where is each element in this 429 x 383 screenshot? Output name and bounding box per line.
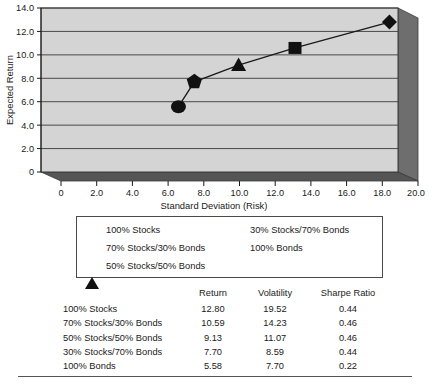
cell-sharpe: 0.44 xyxy=(306,302,390,316)
col-header-name xyxy=(60,286,182,302)
legend-item-30-70: 30% Stocks/70% Bonds xyxy=(229,222,349,240)
legend-item-100-bonds: 100% Bonds xyxy=(229,240,349,258)
x-tick-14: 14.0 xyxy=(302,188,320,198)
portfolio-stats-table: Return Volatility Sharpe Ratio 100% Stoc… xyxy=(60,286,390,373)
plot-floor xyxy=(41,172,418,181)
table-row: 100% Stocks12.8019.520.44 xyxy=(60,302,390,316)
plot-right-wall xyxy=(398,8,418,181)
x-tick-18: 18.0 xyxy=(373,188,391,198)
legend-label: 30% Stocks/70% Bonds xyxy=(250,226,349,235)
cell-volatility: 8.59 xyxy=(244,345,306,359)
x-tick-0: 0 xyxy=(58,188,63,198)
y-tick-6: 6.0 xyxy=(21,97,34,107)
data-point-circle xyxy=(171,100,186,113)
chart-legend: 100% Stocks 70% Stocks/30% Bonds 50% Sto… xyxy=(76,216,383,278)
y-tick-10: 10.0 xyxy=(16,50,34,60)
y-tick-8: 8.0 xyxy=(21,74,34,84)
table-header-row: Return Volatility Sharpe Ratio xyxy=(60,286,390,302)
x-tick-20: 20.0 xyxy=(407,188,425,198)
cell-return: 10.59 xyxy=(182,316,244,330)
cell-portfolio-name: 50% Stocks/50% Bonds xyxy=(60,331,182,345)
cell-portfolio-name: 100% Stocks xyxy=(60,302,182,316)
y-axis xyxy=(37,8,41,172)
y-tick-labels: 14.0 12.0 10.0 8.0 6.0 4.0 2.0 0 xyxy=(16,3,34,177)
cell-return: 7.70 xyxy=(182,345,244,359)
legend-label: 100% Stocks xyxy=(106,226,160,235)
table-row: 70% Stocks/30% Bonds10.5914.230.46 xyxy=(60,316,390,330)
square-marker-icon xyxy=(85,242,100,257)
table-bottom-rule xyxy=(18,376,412,377)
cell-return: 12.80 xyxy=(182,302,244,316)
chart-canvas: 14.0 12.0 10.0 8.0 6.0 4.0 2.0 0 Expecte… xyxy=(0,0,429,212)
legend-label: 70% Stocks/30% Bonds xyxy=(106,244,205,253)
y-tick-12: 12.0 xyxy=(16,27,34,37)
table-row: 50% Stocks/50% Bonds9.1311.070.46 xyxy=(60,331,390,345)
plot-face xyxy=(41,8,398,172)
y-tick-2: 2.0 xyxy=(21,144,34,154)
cell-portfolio-name: 30% Stocks/70% Bonds xyxy=(60,345,182,359)
legend-column-left: 100% Stocks 70% Stocks/30% Bonds 50% Sto… xyxy=(85,222,205,276)
diamond-marker-icon xyxy=(85,224,100,239)
cell-portfolio-name: 70% Stocks/30% Bonds xyxy=(60,316,182,330)
y-tick-4: 4.0 xyxy=(21,121,34,131)
x-tick-2: 2.0 xyxy=(90,188,103,198)
col-header-sharpe: Sharpe Ratio xyxy=(306,286,390,302)
y-tick-0: 0 xyxy=(29,167,34,177)
legend-label: 100% Bonds xyxy=(250,244,303,253)
x-axis-title: Standard Deviation (Risk) xyxy=(161,200,268,211)
x-tick-10: 10.0 xyxy=(231,188,249,198)
cell-return: 9.13 xyxy=(182,331,244,345)
cell-volatility: 14.23 xyxy=(244,316,306,330)
cell-return: 5.58 xyxy=(182,359,244,373)
cell-volatility: 19.52 xyxy=(244,302,306,316)
cell-sharpe: 0.46 xyxy=(306,316,390,330)
x-tick-12: 12.0 xyxy=(266,188,284,198)
x-axis xyxy=(61,181,418,186)
legend-column-right: 30% Stocks/70% Bonds 100% Bonds xyxy=(229,222,349,258)
x-tick-8: 8.0 xyxy=(197,188,210,198)
legend-item-50-50: 50% Stocks/50% Bonds xyxy=(85,258,205,276)
table-row: 100% Bonds5.587.700.22 xyxy=(60,359,390,373)
cell-sharpe: 0.46 xyxy=(306,331,390,345)
cell-portfolio-name: 100% Bonds xyxy=(60,359,182,373)
col-header-return: Return xyxy=(182,286,244,302)
legend-label: 50% Stocks/50% Bonds xyxy=(106,262,205,271)
y-tick-14: 14.0 xyxy=(16,3,34,13)
risk-return-chart: 14.0 12.0 10.0 8.0 6.0 4.0 2.0 0 Expecte… xyxy=(0,0,429,212)
x-tick-labels: 0 2.0 4.0 6.0 8.0 10.0 12.0 14.0 16.0 18… xyxy=(58,188,425,198)
cell-volatility: 7.70 xyxy=(244,359,306,373)
table-row: 30% Stocks/70% Bonds7.708.590.44 xyxy=(60,345,390,359)
triangle-marker-icon xyxy=(85,260,100,275)
legend-item-70-30: 70% Stocks/30% Bonds xyxy=(85,240,205,258)
cell-sharpe: 0.22 xyxy=(306,359,390,373)
pentagon-marker-icon xyxy=(229,224,244,239)
x-tick-6: 6.0 xyxy=(162,188,175,198)
x-tick-4: 4.0 xyxy=(126,188,139,198)
cell-sharpe: 0.44 xyxy=(306,345,390,359)
cell-volatility: 11.07 xyxy=(244,331,306,345)
legend-item-100-stocks: 100% Stocks xyxy=(85,222,205,240)
x-tick-16: 16.0 xyxy=(338,188,356,198)
y-axis-title: Expected Return xyxy=(4,55,15,125)
col-header-volatility: Volatility xyxy=(244,286,306,302)
circle-marker-icon xyxy=(229,242,244,257)
data-point-square xyxy=(289,42,302,54)
